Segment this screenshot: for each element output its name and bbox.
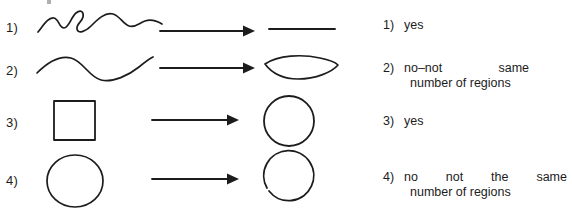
right-arrow (152, 172, 240, 186)
answer-text: no–not same number of regions (404, 61, 529, 91)
wiggly-open-curve (35, 4, 165, 44)
answer-number: 1) (383, 18, 394, 33)
answer-line: no–not same (404, 61, 529, 76)
figure-row: 2) 2) no–not same number of regions (0, 47, 572, 92)
row-index-label: 3) (6, 115, 18, 130)
answer-line: no not the same (404, 170, 567, 185)
row-index-label: 4) (6, 173, 18, 188)
right-arrow (160, 61, 256, 75)
row-index-label: 2) (6, 63, 18, 78)
answer-line: number of regions (410, 185, 567, 200)
circle (45, 153, 107, 211)
figure-row: 1) 1) yes (0, 0, 572, 47)
circle (262, 94, 318, 148)
lens-shape (262, 53, 340, 83)
answer-line: number of regions (410, 76, 529, 91)
answer-text: yes (404, 18, 423, 33)
row-index-label: 1) (6, 20, 18, 35)
answer-number: 2) (383, 61, 394, 76)
answer-number: 4) (383, 170, 394, 185)
square (52, 99, 98, 143)
right-arrow (160, 24, 256, 38)
answer-line: yes (404, 114, 423, 129)
open-circle-with-gap (260, 152, 320, 210)
answer-text: yes (404, 114, 423, 129)
answer-text: no not the same number of regions (404, 170, 567, 200)
answer-line: yes (404, 18, 423, 33)
transformation-figure: 1) 1) yes 2) (0, 0, 572, 214)
figure-row: 3) 3) yes (0, 92, 572, 150)
right-arrow (152, 113, 240, 127)
figure-row: 4) 4) no not the same number of regions (0, 150, 572, 214)
straight-line-segment (268, 24, 338, 34)
answer-number: 3) (383, 114, 394, 129)
s-curve (35, 53, 155, 85)
